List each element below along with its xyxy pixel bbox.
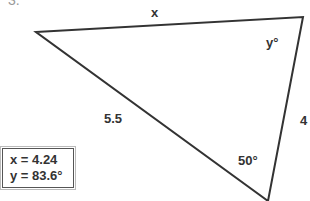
side-label-left: 5.5 xyxy=(104,112,122,125)
side-label-right: 4 xyxy=(300,114,307,127)
angle-label-bottom: 50° xyxy=(238,154,258,167)
answer-box: x = 4.24 y = 83.6° xyxy=(2,148,74,188)
answer-y: y = 83.6° xyxy=(10,168,73,184)
angle-label-top-right: y° xyxy=(266,36,278,49)
answer-x: x = 4.24 xyxy=(10,152,73,168)
triangle xyxy=(36,17,303,201)
side-label-top: x xyxy=(151,6,158,19)
